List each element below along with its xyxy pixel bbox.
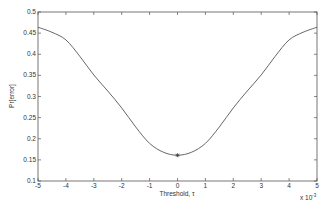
x-axis-exponent: x 10-3 [300,193,317,201]
y-tick-label: 0.15 [23,156,36,163]
x-tick-label: 5 [315,182,319,189]
x-tick-label: 1 [204,182,208,189]
x-tick-label: -5 [35,182,41,189]
y-tick-label: 0.3 [27,93,36,100]
y-axis-label: Pr[error] [8,84,16,108]
minimum-marker [176,153,180,157]
x-tick-label: -2 [119,182,125,189]
x-tick-label: -3 [91,182,97,189]
x-axis-label: Threshold, τ [159,190,195,197]
x-tick-label: -1 [147,182,153,189]
y-tick-label: 0.1 [27,177,36,184]
y-tick-label: 0.2 [27,135,36,142]
x-tick-label: 4 [287,182,291,189]
x-tick-label: 2 [231,182,235,189]
x-tick-label: 3 [259,182,263,189]
y-tick-label: 0.25 [23,114,36,121]
y-tick-label: 0.5 [27,8,36,15]
x-tick-label: -4 [63,182,69,189]
y-tick-label: 0.45 [23,29,36,36]
y-tick-label: 0.35 [23,71,36,78]
chart: -5-4-3-2-1012345 0.10.150.20.250.30.350.… [0,0,335,209]
x-tick-label: 0 [176,182,180,189]
y-tick-label: 0.4 [27,50,36,57]
